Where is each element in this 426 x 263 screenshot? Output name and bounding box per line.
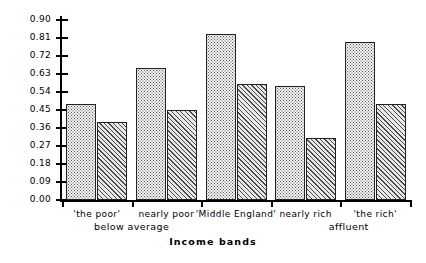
x-axis-tick <box>340 200 342 207</box>
y-axis-tick-label: 0.81 <box>17 33 51 42</box>
x-axis-tick <box>410 200 412 207</box>
y-axis-tick-label: 0.00 <box>17 195 51 204</box>
y-axis-tick-label: 0.27 <box>17 141 51 150</box>
y-axis-tick-label: 0.90 <box>17 15 51 24</box>
bar-series-b-3 <box>306 138 336 200</box>
y-axis-tick-label: 0.63 <box>17 69 51 78</box>
x-axis-tick <box>271 200 273 207</box>
bar-series-a-4 <box>345 42 375 200</box>
bar-series-a-3 <box>275 86 305 200</box>
bar-chart: 0.000.090.180.270.360.450.540.630.720.81… <box>0 0 426 263</box>
bar-series-b-4 <box>376 104 406 200</box>
group-label: affluent <box>294 221 404 232</box>
y-axis-tick-label: 0.72 <box>17 51 51 60</box>
y-axis-tick-label: 0.54 <box>17 87 51 96</box>
bar-series-b-2 <box>237 84 267 200</box>
x-axis-tick <box>201 200 203 207</box>
bar-series-a-2 <box>206 34 236 200</box>
y-axis-tick-label: 0.18 <box>17 159 51 168</box>
y-axis-tick-label: 0.36 <box>17 123 51 132</box>
category-label: 'the rich' <box>320 209 426 219</box>
bar-series-a-0 <box>66 104 96 200</box>
bar-series-a-1 <box>136 68 166 200</box>
bar-series-b-1 <box>167 110 197 200</box>
plot-area <box>62 20 410 200</box>
x-axis-tick <box>132 200 134 207</box>
x-axis-title: Income bands <box>0 236 426 247</box>
bar-series-b-0 <box>97 122 127 200</box>
y-axis-tick-label: 0.45 <box>17 105 51 114</box>
y-axis-tick-label: 0.09 <box>17 177 51 186</box>
x-axis-tick <box>62 200 64 207</box>
group-label: below average <box>77 221 187 232</box>
